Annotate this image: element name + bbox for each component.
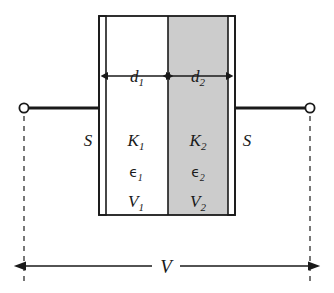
- S-right-label: S: [243, 131, 252, 150]
- dielectric-region-2: [168, 16, 228, 215]
- dielectric-region-1: [106, 16, 168, 215]
- S-left-label: S: [84, 131, 93, 150]
- capacitor-diagram: d1 d2 K1 K2 ϵ1 ϵ2 V1 V2 S: [0, 0, 334, 293]
- left-plate: [99, 16, 106, 215]
- diagram-canvas: d1 d2 K1 K2 ϵ1 ϵ2 V1 V2 S: [0, 0, 334, 293]
- right-plate: [228, 16, 235, 215]
- V-total-label: V: [160, 256, 174, 277]
- left-terminal-node: [19, 103, 28, 112]
- right-terminal-node: [305, 103, 314, 112]
